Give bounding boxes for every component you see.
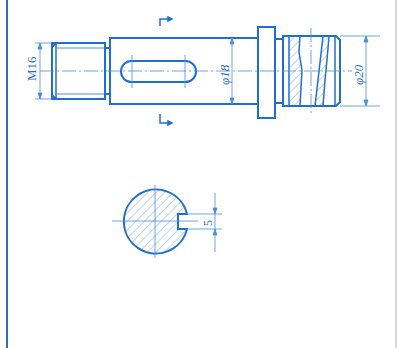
dimension-phi20-label: φ20 (351, 64, 366, 85)
collar (258, 27, 275, 118)
section-mark-top (160, 17, 172, 26)
dimension-keyway-label: 5 (201, 220, 215, 226)
dimension-phi18-label: φ18 (217, 64, 232, 85)
dimension-m16-label: M16 (24, 56, 39, 81)
section-mark-bottom (160, 114, 172, 125)
cross-section-view (112, 185, 198, 258)
drawing-sheet: M16 φ18 φ20 5 (0, 0, 406, 348)
cross-section-disc (124, 190, 187, 254)
shaft-front-view (52, 27, 340, 118)
